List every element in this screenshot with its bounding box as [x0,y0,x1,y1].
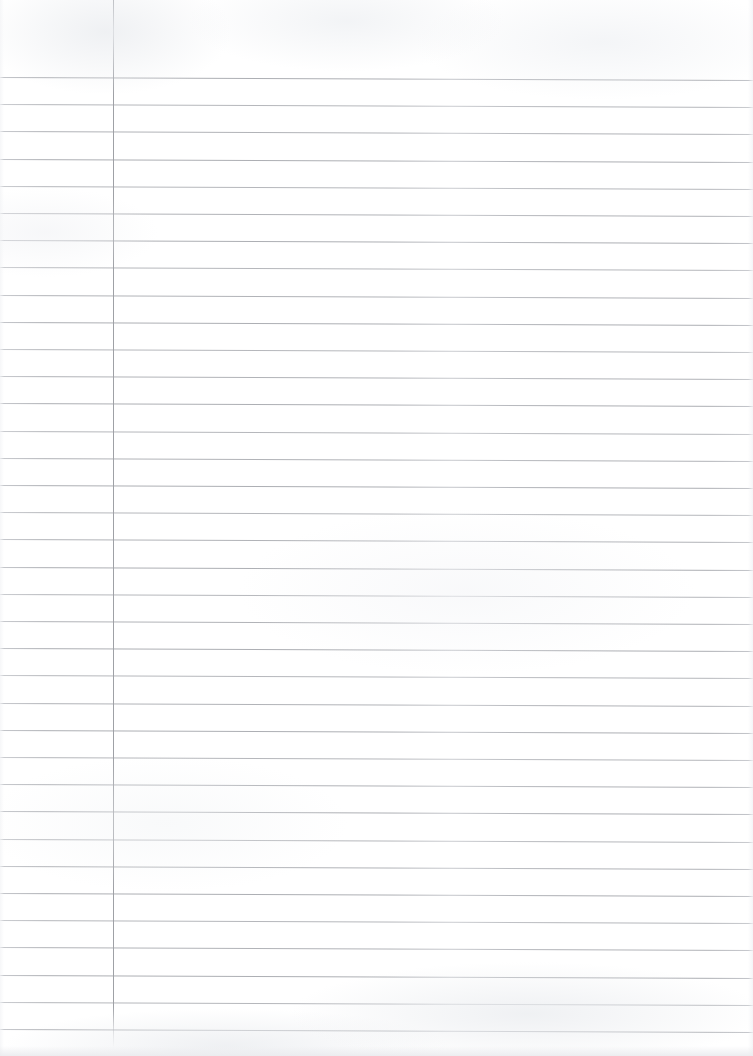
notebook-page [0,0,753,1056]
vertical-margin-line-icon [113,0,114,1048]
